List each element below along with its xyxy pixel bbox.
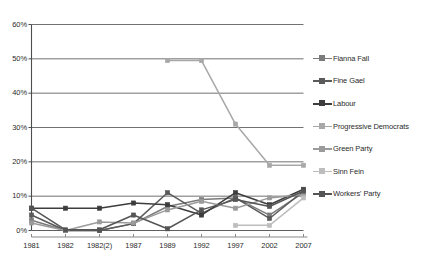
data-point-marker [29,206,33,210]
legend-marker-icon [313,75,332,86]
data-point-marker [233,198,237,202]
y-axis-label: 50% [1,54,27,63]
data-point-marker [97,220,101,224]
legend-item[interactable]: Fine Gael [313,70,424,93]
data-point-marker [131,221,135,225]
data-point-marker [267,163,271,167]
data-point-marker [63,206,67,210]
data-point-marker [233,223,237,227]
line-chart: 60%50%40%30%20%10%0% 198119821982(2)1987… [0,0,424,261]
y-axis-label: 10% [1,191,27,200]
data-point-marker [233,206,237,210]
data-point-marker [165,203,169,207]
data-point-marker [233,122,237,126]
legend-marker-icon [313,188,332,199]
data-point-marker [29,221,33,225]
chart-legend: Fianna FallFine GaelLabourProgressive De… [313,47,424,205]
legend-item-label: Progressive Democrats [332,122,409,131]
data-point-marker [199,199,203,203]
data-point-marker [29,213,33,217]
legend-item-label: Workers' Party [332,189,380,198]
data-point-marker [199,58,203,62]
data-point-marker [131,201,135,205]
legend-item[interactable]: Green Party [313,137,424,160]
data-point-marker [267,196,271,200]
legend-item[interactable]: Fianna Fall [313,47,424,70]
data-point-marker [131,213,135,217]
series-progressive-democrats [165,58,305,167]
data-point-marker [97,206,101,210]
y-axis-label: 0% [1,226,27,235]
series-line [168,61,304,166]
legend-item-label: Fine Gael [332,76,365,85]
data-point-marker [233,191,237,195]
legend-item[interactable]: Workers' Party [313,183,424,206]
data-point-marker [267,216,271,220]
legend-marker-icon [313,98,332,109]
data-point-marker [97,228,101,232]
data-point-marker [165,227,169,231]
x-axis-label: 2007 [284,241,324,250]
data-point-marker [165,191,169,195]
data-point-marker [63,228,67,232]
y-axis-label: 20% [1,157,27,166]
data-point-marker [165,208,169,212]
data-point-marker [267,204,271,208]
data-point-marker [301,163,305,167]
legend-marker-icon [313,53,332,64]
legend-marker-icon [313,143,332,154]
y-axis-label: 30% [1,123,27,132]
legend-item-label: Fianna Fall [332,54,369,63]
y-axis-label: 60% [1,20,27,29]
legend-item[interactable]: Labour [313,92,424,115]
legend-item-label: Sinn Fein [332,167,364,176]
data-point-marker [199,208,203,212]
data-point-marker [301,189,305,193]
data-point-marker [165,58,169,62]
legend-item-label: Green Party [332,144,372,153]
data-point-marker [267,223,271,227]
legend-marker-icon [313,166,332,177]
legend-item[interactable]: Progressive Democrats [313,115,424,138]
legend-marker-icon [313,121,332,132]
y-axis-label: 40% [1,88,27,97]
data-point-marker [301,196,305,200]
series-sinn-fein [233,196,305,228]
data-point-marker [199,213,203,217]
legend-item[interactable]: Sinn Fein [313,160,424,183]
legend-item-label: Labour [332,99,356,108]
